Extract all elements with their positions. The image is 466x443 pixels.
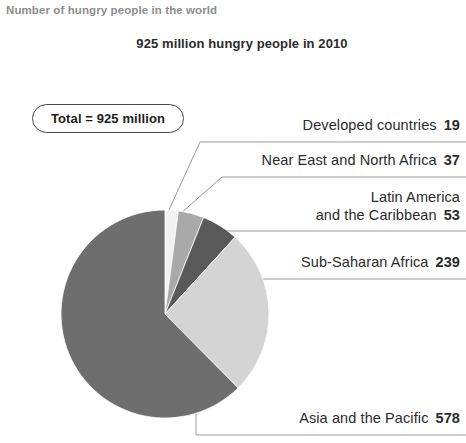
pie-label-name-asia-pacific: Asia and the Pacific <box>299 410 428 426</box>
pie-label-name-near-east-north-africa: Near East and North Africa <box>262 152 437 168</box>
pie-label-developed-countries: Developed countries19 <box>303 116 460 134</box>
pie-label-asia-pacific: Asia and the Pacific578 <box>299 409 460 427</box>
pie-label-name-latin-america-line2-row: and the Caribbean53 <box>316 206 460 224</box>
pie-value-latin-america-caribbean: 53 <box>444 207 460 223</box>
pie-label-name-sub-saharan-africa: Sub-Saharan Africa <box>301 254 429 270</box>
pie-label-name-latin-america-line1: Latin America <box>316 188 460 206</box>
pie-value-developed-countries: 19 <box>444 117 460 133</box>
pie-label-latin-america-caribbean: Latin America and the Caribbean53 <box>316 188 460 224</box>
pie-value-sub-saharan-africa: 239 <box>436 254 461 270</box>
pie-label-sub-saharan-africa: Sub-Saharan Africa239 <box>301 253 460 271</box>
pie-label-name-latin-america-line2: and the Caribbean <box>316 207 437 223</box>
chart-figure: Number of hungry people in the world 925… <box>0 0 466 443</box>
pie-value-asia-pacific: 578 <box>436 410 461 426</box>
pie-label-near-east-north-africa: Near East and North Africa37 <box>262 151 460 169</box>
pie-label-name-developed-countries: Developed countries <box>303 117 437 133</box>
pie-slices <box>61 210 269 418</box>
pie-value-near-east-north-africa: 37 <box>444 152 460 168</box>
